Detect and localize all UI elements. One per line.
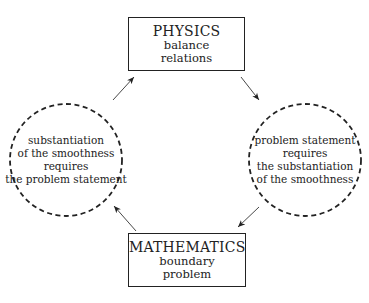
physics-box: PHYSICS balance relations xyxy=(128,17,245,71)
arrow-bottom-to-left xyxy=(114,206,136,231)
mathematics-box: MATHEMATICS boundary problem xyxy=(128,233,246,287)
mathematics-line2: problem xyxy=(129,268,245,281)
left-circle-line3: requires xyxy=(4,160,128,173)
arrow-left-to-top xyxy=(113,77,134,100)
physics-title: PHYSICS xyxy=(129,23,244,39)
left-circle-line1: substantiation xyxy=(4,134,128,147)
left-circle-text: substantiation of the smoothness require… xyxy=(4,134,128,186)
right-circle-line4: of the smoothness xyxy=(245,173,365,186)
right-circle-line2: requires xyxy=(245,147,365,160)
arrow-top-to-right xyxy=(241,77,259,100)
right-circle-line1: problem statement xyxy=(245,134,365,147)
right-circle-text: problem statement requires the substanti… xyxy=(245,134,365,186)
left-circle-line4: the problem statement xyxy=(4,173,128,186)
left-circle-line2: of the smoothness xyxy=(4,147,128,160)
right-circle-line3: the substantiation xyxy=(245,160,365,173)
mathematics-title: MATHEMATICS xyxy=(129,239,245,255)
physics-line2: relations xyxy=(129,52,244,65)
arrow-right-to-bottom xyxy=(238,207,259,227)
